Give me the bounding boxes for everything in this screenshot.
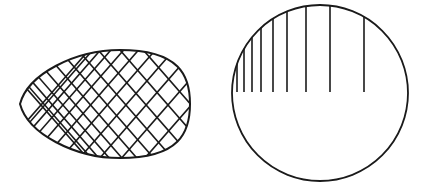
egg-lattice-lines — [0, 42, 271, 168]
diagram-svg — [0, 0, 424, 194]
circle-verticals-figure — [232, 5, 408, 181]
diagram-canvas — [0, 0, 424, 194]
circle-outline — [232, 5, 408, 181]
egg-lattice-figure — [0, 42, 271, 168]
